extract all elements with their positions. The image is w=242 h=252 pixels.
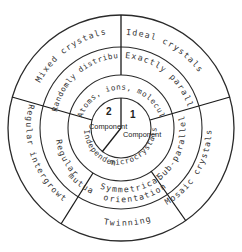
label-sub-parallel: Sub-parallel [155, 114, 188, 182]
component-2-label: Component [89, 122, 127, 131]
divider-center-lower [102, 128, 121, 152]
component-1-number: 1 [130, 109, 136, 120]
crystal-classification-diagram: 2 1 Component Component Atoms, ions, mol… [0, 0, 242, 252]
label-twinning: Twinning [103, 213, 152, 228]
component-2-number: 2 [106, 106, 112, 117]
